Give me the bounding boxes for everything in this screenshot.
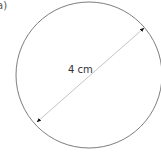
circle-outline	[16, 2, 161, 148]
circle-diagram: 4 cm	[0, 0, 161, 167]
diameter-label: 4 cm	[68, 64, 93, 75]
diameter-line	[37, 28, 144, 122]
